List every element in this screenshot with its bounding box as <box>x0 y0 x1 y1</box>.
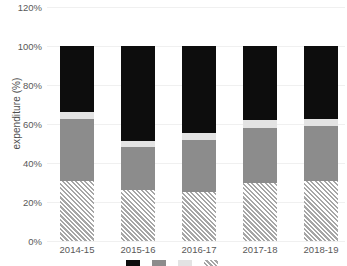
bar-segment-hatched-segment <box>243 183 277 242</box>
x-tick-label: 2017-18 <box>226 244 294 255</box>
bar-2014-15 <box>60 46 94 241</box>
bar-segment-light-gray-segment <box>304 119 338 126</box>
bar-segment-light-gray-segment <box>182 133 216 140</box>
y-tick-label: 80% <box>2 80 42 91</box>
bar-segment-gray-segment <box>182 140 216 193</box>
bar-2016-17 <box>182 46 216 241</box>
plot-area <box>47 0 345 241</box>
bar-segment-gray-segment <box>121 147 155 190</box>
y-tick-label: 120% <box>2 2 42 13</box>
bar-segment-black-segment <box>304 46 338 119</box>
legend-item[interactable] <box>178 260 195 266</box>
bar-segment-hatched-segment <box>182 192 216 241</box>
legend-swatch-hatch <box>204 260 218 266</box>
bar-2018-19 <box>304 46 338 241</box>
bar-segment-hatched-segment <box>60 181 94 241</box>
bar-segment-hatched-segment <box>121 190 155 241</box>
legend-item[interactable] <box>204 260 221 266</box>
y-tick-label: 0% <box>2 236 42 247</box>
legend-swatch-light <box>178 260 192 266</box>
bar-segment-black-segment <box>60 46 94 112</box>
legend-swatch-black <box>126 260 140 266</box>
bar-segment-black-segment <box>182 46 216 133</box>
x-tick-label: 2015-16 <box>104 244 172 255</box>
bar-segment-light-gray-segment <box>121 141 155 148</box>
bar-segment-black-segment <box>243 46 277 120</box>
y-tick-label: 40% <box>2 158 42 169</box>
gridline <box>47 241 345 242</box>
stacked-bar-chart: expenditure (%) 120%100%80%60%40%20%0% 2… <box>0 0 347 266</box>
y-axis-title: expenditure (%) <box>11 54 22 174</box>
y-tick-label: 60% <box>2 119 42 130</box>
x-tick-label: 2014-15 <box>43 244 111 255</box>
bar-segment-gray-segment <box>243 128 277 183</box>
y-tick-label: 100% <box>2 41 42 52</box>
bar-segment-light-gray-segment <box>243 120 277 128</box>
legend-swatch-gray <box>152 260 166 266</box>
y-tick-label: 20% <box>2 197 42 208</box>
x-tick-label: 2016-17 <box>165 244 233 255</box>
x-tick-label: 2018-19 <box>287 244 347 255</box>
bar-segment-gray-segment <box>304 126 338 181</box>
chart-legend <box>0 259 347 266</box>
bar-segment-hatched-segment <box>304 181 338 241</box>
gridline <box>47 7 345 8</box>
bar-segment-gray-segment <box>60 119 94 180</box>
bar-2017-18 <box>243 46 277 241</box>
legend-item[interactable] <box>126 260 143 266</box>
legend-item[interactable] <box>152 260 169 266</box>
bar-segment-light-gray-segment <box>60 112 94 119</box>
bar-2015-16 <box>121 46 155 241</box>
bar-segment-black-segment <box>121 46 155 141</box>
